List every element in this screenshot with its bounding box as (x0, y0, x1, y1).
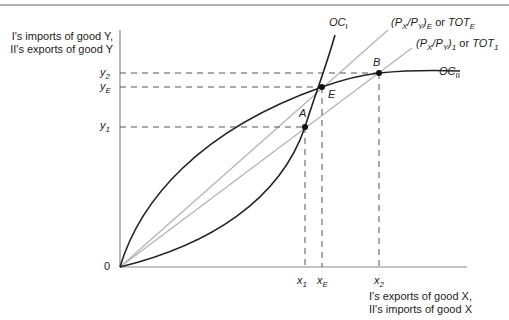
tick-ye: yE (100, 80, 111, 97)
origin-label: 0 (104, 260, 110, 273)
x-axis-label: I's exports of good X, II's imports of g… (369, 290, 472, 316)
point-e-label: E (328, 88, 335, 101)
y-axis-label-line2: II's exports of good Y (0, 43, 113, 56)
point-b-label: B (373, 56, 380, 69)
oc-ii-label: OCII (439, 65, 460, 82)
tick-x1: x1 (297, 274, 307, 291)
tick-y1: y1 (100, 119, 110, 136)
point-b (376, 70, 382, 76)
tick-xe: xE (317, 274, 328, 291)
y-axis-label: I's imports of good Y, II's exports of g… (0, 30, 113, 56)
point-a (302, 124, 308, 130)
tot-e-label: (PX/PY)E or TOTE (391, 16, 475, 33)
x-axis-label-line1: I's exports of good X, (369, 290, 472, 303)
point-e (319, 84, 325, 90)
offer-curve-ii (120, 71, 460, 267)
tot-e-line (120, 30, 388, 267)
tick-x2: x2 (374, 274, 384, 291)
x-axis-label-line2: II's imports of good X (369, 303, 472, 316)
offer-curve-i (120, 35, 335, 267)
tot-1-line (120, 48, 412, 267)
tot-1-label: (PX/PY)1 or TOT1 (416, 37, 498, 54)
point-a-label: A (299, 107, 306, 120)
y-axis-label-line1: I's imports of good Y, (0, 30, 113, 43)
oc-i-label: OCI (329, 16, 348, 33)
